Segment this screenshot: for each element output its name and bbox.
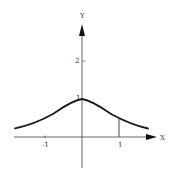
- y-axis-label: Y: [79, 12, 85, 20]
- x-tick-label-neg1: -1: [42, 141, 49, 149]
- x-tick-label-1: 1: [118, 141, 122, 149]
- y-axis-arrow-icon: [79, 24, 85, 36]
- chart-canvas: Y X 2 1 -1 1: [0, 0, 174, 176]
- x-axis-arrow-icon: [146, 134, 157, 140]
- curve-line: [15, 99, 148, 129]
- x-axis-label: X: [160, 134, 165, 142]
- y-tick-label-2: 2: [75, 57, 79, 65]
- y-tick-label-1: 1: [76, 94, 80, 102]
